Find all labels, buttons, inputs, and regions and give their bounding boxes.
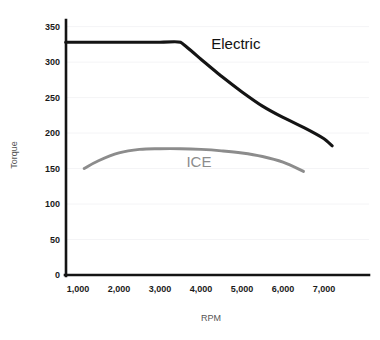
x-axis-title: RPM	[201, 313, 221, 323]
x-tick-label-2000: 2,000	[108, 284, 131, 294]
y-tick-label-50: 50	[50, 235, 60, 245]
y-axis-title: Torque	[9, 141, 19, 169]
x-tick-label-4000: 4,000	[190, 284, 213, 294]
chart-page: 050100150200250300350 1,0002,0003,0004,0…	[0, 0, 380, 340]
y-tick-label-150: 150	[45, 164, 60, 174]
y-tick-label-300: 300	[45, 57, 60, 67]
series-label-electric: Electric	[211, 35, 261, 52]
y-tick-label-100: 100	[45, 199, 60, 209]
x-tick-label-6000: 6,000	[272, 284, 295, 294]
series-label-ice: ICE	[186, 153, 211, 170]
y-tick-label-0: 0	[55, 270, 60, 280]
x-tick-label-3000: 3,000	[149, 284, 172, 294]
x-tick-label-7000: 7,000	[313, 284, 336, 294]
x-tick-label-5000: 5,000	[231, 284, 254, 294]
y-tick-label-200: 200	[45, 128, 60, 138]
y-tick-label-250: 250	[45, 93, 60, 103]
torque-vs-rpm-chart: 050100150200250300350 1,0002,0003,0004,0…	[0, 0, 380, 340]
x-tick-label-1000: 1,000	[67, 284, 90, 294]
y-tick-label-350: 350	[45, 22, 60, 32]
